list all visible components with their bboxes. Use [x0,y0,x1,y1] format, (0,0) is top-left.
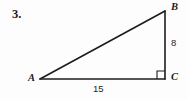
side-length-label-bc: 8 [171,38,176,48]
right-angle-marker-icon [157,71,165,79]
vertex-label-a: A [28,73,35,84]
geometry-figure: 3. A B C 8 15 [0,0,188,100]
vertex-label-b: B [171,2,178,13]
side-ab-hypotenuse [40,11,165,79]
side-length-label-ac: 15 [93,84,104,94]
problem-number: 3. [12,8,21,21]
vertex-label-c: C [171,72,178,83]
